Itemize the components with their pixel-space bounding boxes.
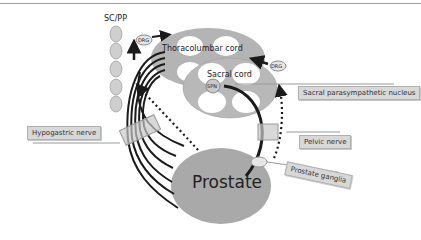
thoracolumbar-label: Thoracolumbar cord bbox=[162, 44, 243, 53]
pelvic-callout: Pelvic nerve bbox=[299, 135, 351, 149]
sympathetic-chain bbox=[110, 26, 122, 112]
drg-right-label: DRG bbox=[271, 63, 282, 69]
diagram-canvas bbox=[0, 0, 421, 240]
spn-label: SPN bbox=[207, 83, 217, 89]
sc-pp-label: SC/PP bbox=[104, 14, 127, 23]
drg-top-label: DRG bbox=[138, 37, 149, 43]
sacral-nucleus-callout: Sacral parasympathetic nucleus bbox=[298, 86, 420, 100]
sacral-label: Sacral cord bbox=[207, 70, 252, 79]
prostate-ganglion bbox=[251, 157, 267, 167]
hypogastric-callout: Hypogastric nerve bbox=[27, 126, 101, 140]
prostate-label: Prostate bbox=[192, 172, 262, 192]
